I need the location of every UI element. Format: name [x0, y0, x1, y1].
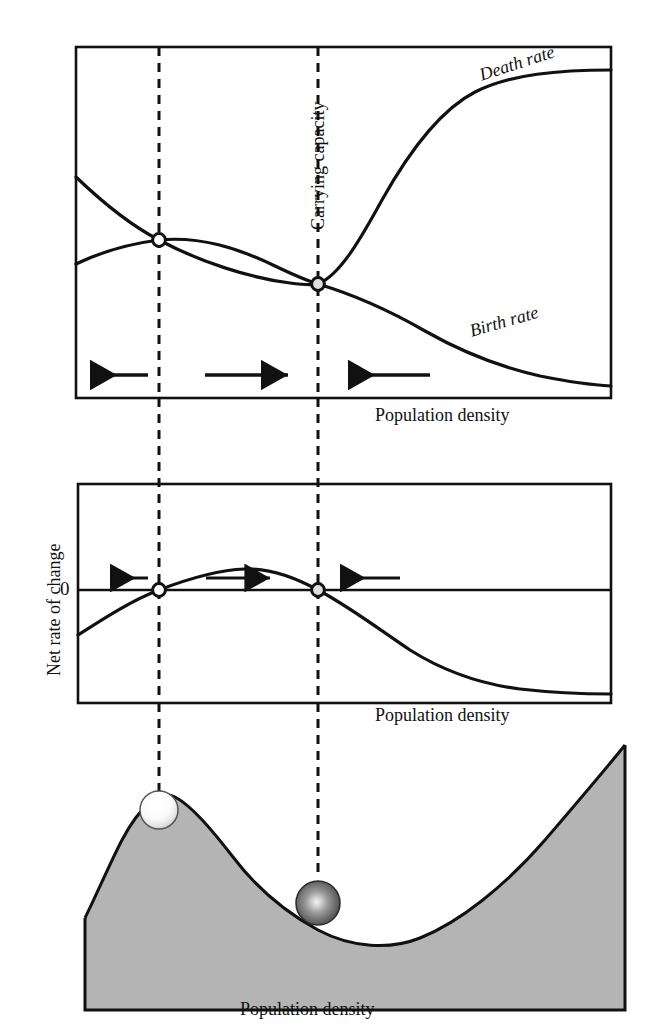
panel-middle-group: [78, 398, 611, 703]
panel-bottom-x-axis-label: Population density: [240, 1000, 375, 1018]
panel-middle-y-axis-label: Net rate of change: [45, 544, 63, 676]
zero-tick-label: 0: [60, 579, 70, 598]
panel-top-frame: [76, 47, 611, 398]
panel-top-group: [76, 47, 611, 398]
carrying-capacity-label: Carrying capacity: [309, 102, 327, 230]
figure-root: Death rate Birth rate Carrying capacity …: [0, 0, 647, 1028]
stability-landscape-surface: [85, 745, 625, 1010]
equilibrium-marker-stable-top: [312, 278, 325, 291]
stable-ball: [296, 881, 340, 925]
panel-middle-x-axis-label: Population density: [375, 706, 510, 724]
equilibrium-marker-unstable-middle: [153, 584, 166, 597]
panel-bottom-group: [85, 703, 625, 1010]
equilibrium-marker-unstable-top: [153, 234, 166, 247]
equilibrium-marker-stable-middle: [312, 584, 325, 597]
unstable-ball: [140, 791, 178, 829]
panel-top-x-axis-label: Population density: [375, 406, 510, 424]
